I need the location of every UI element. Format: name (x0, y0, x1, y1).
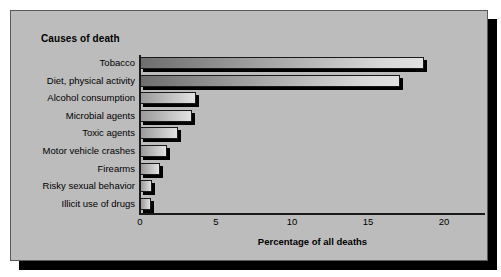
category-label: Risky sexual behavior (43, 181, 135, 191)
bar-fill (140, 92, 196, 104)
category-label: Diet, physical activity (47, 76, 135, 86)
x-axis-line (140, 213, 485, 215)
bar (140, 198, 155, 214)
category-label: Firearms (98, 164, 135, 174)
bar-fill (140, 110, 192, 122)
x-tick-label: 10 (287, 216, 298, 227)
x-tick-label: 0 (137, 216, 142, 227)
chart-figure: Causes of death TobaccoDiet, physical ac… (0, 0, 501, 277)
bar-fill (140, 75, 400, 87)
bar-fill (140, 145, 167, 157)
bar-fill (140, 127, 178, 139)
bar (140, 92, 200, 108)
x-tick-label: 5 (213, 216, 218, 227)
category-label: Illicit use of drugs (62, 199, 135, 209)
bar (140, 127, 182, 143)
category-label: Tobacco (100, 58, 135, 68)
bar-fill (140, 57, 424, 69)
category-label: Microbial agents (66, 111, 135, 121)
bar-fill (140, 198, 151, 210)
bar (140, 75, 404, 91)
category-label: Alcohol consumption (47, 93, 135, 103)
bar (140, 57, 428, 73)
bar-fill (140, 163, 160, 175)
x-axis-title: Percentage of all deaths (140, 236, 485, 247)
bar (140, 163, 164, 179)
bar (140, 180, 156, 196)
bar (140, 145, 171, 161)
bar-fill (140, 180, 152, 192)
category-label: Motor vehicle crashes (43, 146, 135, 156)
bar (140, 110, 196, 126)
category-label: Toxic agents (82, 128, 135, 138)
x-tick-label: 20 (439, 216, 450, 227)
x-tick-label: 15 (363, 216, 374, 227)
